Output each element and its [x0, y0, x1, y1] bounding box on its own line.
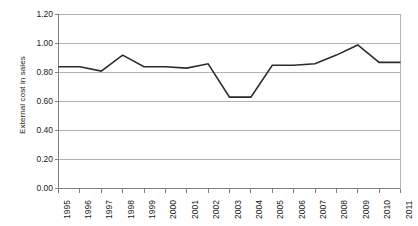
- line-chart: External cost in sales 0.000.200.400.600…: [0, 0, 418, 226]
- plot-area: [0, 0, 418, 226]
- series-line-external-cost: [59, 45, 401, 97]
- x-axis-ticks: [59, 189, 401, 193]
- gridlines: [59, 15, 401, 160]
- data-series-line: [59, 45, 401, 97]
- y-axis-ticks: [55, 15, 59, 189]
